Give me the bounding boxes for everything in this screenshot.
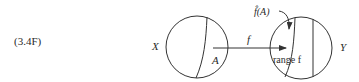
image-label: f̂(A) bbox=[254, 5, 270, 18]
image-boundary bbox=[285, 18, 295, 77]
range-label: range f bbox=[273, 54, 302, 65]
subset-a-boundary bbox=[196, 17, 207, 78]
map-label: f bbox=[247, 33, 252, 45]
subset-a-label: A bbox=[211, 54, 219, 66]
codomain-set-label: Y bbox=[340, 41, 348, 53]
domain-set-label: X bbox=[151, 40, 160, 52]
equation-label: (3.4F) bbox=[14, 35, 42, 48]
function-range-diagram: (3.4F) X A f f̂(A) range f Y bbox=[0, 0, 359, 82]
domain-set-circle bbox=[166, 16, 228, 78]
